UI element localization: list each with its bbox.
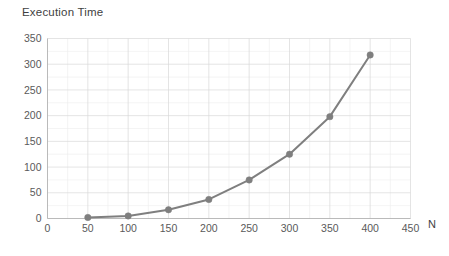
data-point-marker — [246, 177, 252, 183]
x-tick-label: 400 — [361, 222, 379, 234]
data-point-marker — [286, 151, 292, 157]
x-tick-label: 450 — [402, 222, 420, 234]
y-axis-tick-labels: 050100150200250300350 — [24, 32, 42, 224]
y-tick-label: 50 — [30, 186, 42, 198]
x-tick-label: 150 — [160, 222, 178, 234]
y-tick-label: 200 — [24, 109, 42, 121]
y-tick-label: 100 — [24, 161, 42, 173]
x-tick-label: 200 — [200, 222, 218, 234]
data-point-marker — [327, 113, 333, 119]
x-tick-label: 300 — [281, 222, 299, 234]
data-point-marker — [165, 207, 171, 213]
chart-screenshot: Execution Time 050100150200250300350 050… — [0, 0, 449, 256]
x-tick-label: 0 — [45, 222, 51, 234]
y-tick-label: 250 — [24, 84, 42, 96]
x-tick-label: 100 — [119, 222, 137, 234]
data-point-marker — [125, 213, 131, 219]
data-point-marker — [206, 196, 212, 202]
minor-gridlines-group — [48, 39, 411, 219]
data-point-marker — [85, 214, 91, 220]
x-axis-tick-labels: 050100150200250300350400450 — [45, 222, 420, 234]
x-axis-title: N — [428, 218, 436, 230]
execution-time-line-chart: 050100150200250300350 050100150200250300… — [0, 0, 449, 256]
x-tick-label: 350 — [321, 222, 339, 234]
y-tick-label: 150 — [24, 135, 42, 147]
x-tick-label: 50 — [82, 222, 94, 234]
y-tick-label: 300 — [24, 58, 42, 70]
y-tick-label: 350 — [24, 32, 42, 44]
data-point-marker — [367, 52, 373, 58]
x-tick-label: 250 — [240, 222, 258, 234]
y-tick-label: 0 — [36, 212, 42, 224]
